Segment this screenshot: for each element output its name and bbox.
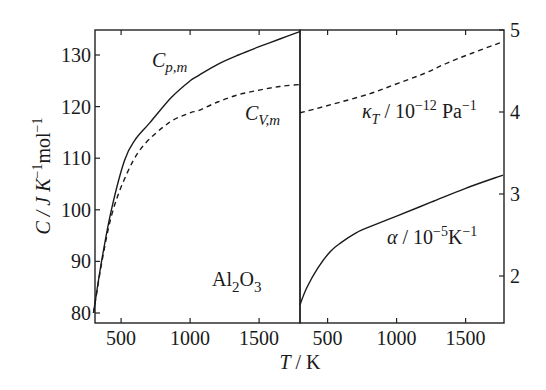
x-axis-title: T / K [279, 351, 321, 373]
y-axis-title: C / J K−1mol−1 [30, 117, 54, 234]
right-y-tick-label: 4 [510, 101, 520, 123]
right-y-tick-label: 2 [510, 265, 520, 287]
left-y-tick-label: 130 [61, 44, 91, 66]
left-y-tick-label: 80 [71, 302, 91, 324]
right-panel-frame [300, 30, 504, 323]
x-tick-label: 1000 [377, 327, 417, 349]
alpha-label: α / 10−5K−1 [387, 224, 477, 248]
cp-curve [94, 31, 301, 313]
right-y-axis: 2345 [499, 19, 520, 287]
right-y-tick-label: 5 [510, 19, 520, 41]
left-panel-frame [95, 30, 300, 323]
compound-label: Al2O3 [212, 268, 261, 295]
left-y-tick-label: 110 [62, 147, 91, 169]
cp-label: Cp,m [152, 49, 188, 75]
x-axis: 5005001000100015001500 [106, 30, 486, 349]
x-tick-label: 500 [106, 327, 136, 349]
cv-label: CV,m [245, 102, 280, 128]
left-y-tick-label: 100 [61, 199, 91, 221]
left-y-tick-label: 90 [71, 250, 91, 272]
x-tick-label: 1500 [446, 327, 486, 349]
right-y-tick-label: 3 [510, 183, 520, 205]
kappa-label: κT / 10−12 Pa−1 [362, 98, 477, 127]
left-y-axis: 8090100110120130 [61, 44, 100, 324]
thermo-properties-chart: 8090100110120130 2345 500500100010001500… [0, 0, 546, 390]
x-tick-label: 1000 [170, 327, 210, 349]
x-tick-label: 500 [313, 327, 343, 349]
left-y-tick-label: 120 [61, 96, 91, 118]
x-tick-label: 1500 [239, 327, 279, 349]
